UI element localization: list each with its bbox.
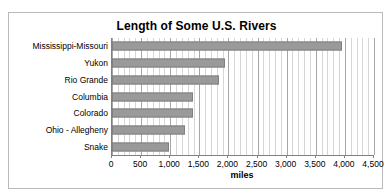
bar [112, 42, 342, 51]
category-label: Snake [9, 142, 108, 152]
category-label: Yukon [9, 58, 108, 68]
category-label: Rio Grande [9, 75, 108, 85]
x-axis-title: miles [111, 170, 373, 180]
x-axis-tick-label: 4,500 [362, 159, 383, 169]
x-axis-tick [257, 155, 258, 158]
x-axis-tick-label: 1,000 [159, 159, 180, 169]
x-axis-tick [344, 155, 345, 158]
category-label: Ohio - Allegheny [9, 125, 108, 135]
x-axis-tick-label: 4,000 [333, 159, 354, 169]
x-axis-tick-label: 2,500 [246, 159, 267, 169]
bar-series [112, 38, 374, 155]
x-axis-tick [198, 155, 199, 158]
chart-frame: Length of Some U.S. Rivers Mississippi-M… [8, 12, 383, 189]
bar [112, 109, 193, 118]
category-label: Mississippi-Missouri [9, 41, 108, 51]
x-axis-tick [111, 155, 112, 158]
x-axis-tick [373, 155, 374, 158]
x-axis-tick-label: 2,000 [217, 159, 238, 169]
bar [112, 92, 193, 101]
bar [112, 125, 185, 134]
gridline-major [374, 38, 375, 155]
x-axis-tick [140, 155, 141, 158]
x-axis-tick-label: 1,500 [188, 159, 209, 169]
x-axis-tick [286, 155, 287, 158]
category-axis: Mississippi-MissouriYukonRio GrandeColum… [9, 38, 108, 155]
x-axis-tick-label: 3,500 [304, 159, 325, 169]
category-label: Colorado [9, 108, 108, 118]
clipped-header-text [0, 0, 391, 5]
x-axis-tick-label: 0 [109, 159, 114, 169]
x-axis-tick-label: 3,000 [275, 159, 296, 169]
bar [112, 142, 169, 151]
x-axis-tick-label: 500 [133, 159, 147, 169]
plot-area [111, 38, 374, 156]
x-axis-tick [315, 155, 316, 158]
bar [112, 59, 225, 68]
chart-page: Length of Some U.S. Rivers Mississippi-M… [0, 0, 391, 196]
x-axis-tick [169, 155, 170, 158]
bar [112, 75, 219, 84]
plot-wrapper: Mississippi-MissouriYukonRio GrandeColum… [9, 13, 384, 190]
category-label: Columbia [9, 92, 108, 102]
x-axis-tick [227, 155, 228, 158]
